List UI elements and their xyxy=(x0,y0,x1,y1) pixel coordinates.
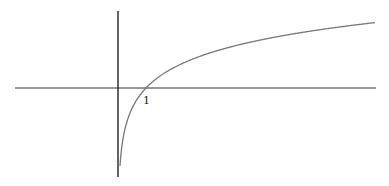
log-function-plot: 1 xyxy=(0,0,389,186)
x-tick-label-1: 1 xyxy=(143,94,150,107)
log-curve xyxy=(120,23,375,166)
